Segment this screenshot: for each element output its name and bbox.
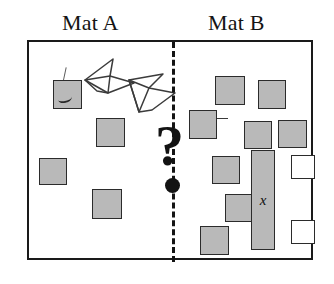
mat-a-label: Mat A bbox=[62, 12, 119, 34]
mat-b-square-3-tick bbox=[217, 118, 228, 119]
mat-b-white-square-lower bbox=[291, 220, 315, 244]
figure-canvas: Mat A Mat B ? bbox=[0, 0, 334, 284]
mat-b-square-5 bbox=[278, 120, 307, 148]
dart-lower-right-inner-icon bbox=[129, 80, 149, 112]
square-curve-mark bbox=[58, 93, 73, 103]
mat-b-square-1 bbox=[215, 76, 245, 105]
mat-b-square-8 bbox=[200, 226, 229, 255]
mat-b-label: Mat B bbox=[208, 12, 265, 34]
mat-b-square-2 bbox=[258, 80, 286, 109]
mat-b-square-6 bbox=[212, 156, 240, 184]
question-mark-dot-icon bbox=[165, 178, 180, 193]
mat-b-bar-x: x bbox=[251, 150, 275, 250]
mat-b-square-3 bbox=[189, 110, 217, 139]
mat-a-square-3 bbox=[39, 158, 67, 185]
dart-doodle-group bbox=[77, 52, 207, 124]
dart-lower-right-icon bbox=[129, 74, 175, 112]
bar-x-label: x bbox=[252, 193, 274, 208]
mat-b-square-7 bbox=[225, 194, 252, 222]
mat-a-square-4 bbox=[92, 189, 122, 219]
square-antenna-line bbox=[63, 67, 67, 80]
question-mark-icon: ? bbox=[155, 117, 182, 175]
mat-b-square-4 bbox=[244, 121, 272, 149]
mat-b-white-square-upper bbox=[291, 155, 315, 179]
arena-frame: ? x bbox=[27, 40, 313, 260]
